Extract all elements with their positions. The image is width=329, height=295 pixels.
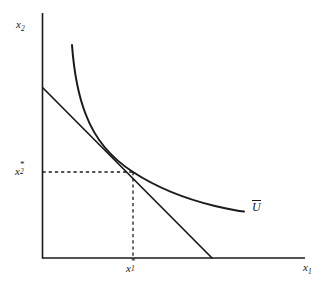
- x-axis-title: x1: [303, 262, 312, 273]
- indifference-curve-figure: x2 x1 x*2 x*1 U: [0, 0, 329, 295]
- x-axis-title-sub: 1: [308, 267, 312, 276]
- utility-curve-label: U: [252, 201, 261, 213]
- utility-curve-label-wrap: U: [252, 201, 261, 213]
- indifference-curve: [72, 45, 244, 212]
- y-axis-title-sub: 2: [21, 24, 25, 33]
- x-optimum-marks: *1: [131, 261, 136, 272]
- x-optimum-tick-label: x*1: [126, 261, 136, 274]
- plot-canvas: [0, 0, 329, 295]
- y-optimum-marks: *2: [20, 164, 25, 175]
- overbar: [252, 200, 261, 201]
- x-optimum-sub: 1: [131, 265, 135, 273]
- y-optimum-tick-label: x*2: [15, 164, 25, 177]
- budget-line: [43, 88, 212, 258]
- y-axis-title: x2: [16, 19, 25, 30]
- utility-curve-label-base: U: [252, 200, 261, 214]
- y-optimum-sub: 2: [20, 168, 24, 176]
